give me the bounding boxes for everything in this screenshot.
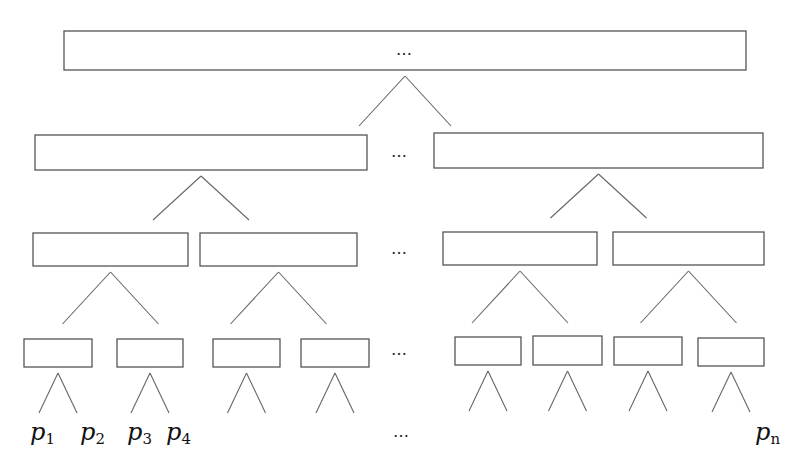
tree-edge-left [712,372,731,412]
tree-node-box [301,339,369,367]
leaf-label: pn [755,418,780,448]
ellipsis: … [391,239,409,258]
ellipsis: … [391,340,409,359]
tree-node-box [614,337,682,365]
tree-edge-right [247,373,266,413]
tree-edge-left [153,176,201,220]
tree-edge-left [629,371,648,411]
tree-node-box [698,338,764,366]
leaf-label: p4 [166,418,191,448]
leaf-label: p3 [127,418,152,448]
ellipsis: … [396,40,414,59]
leaf-label: p2 [80,418,105,448]
tree-node-box [434,133,763,168]
tree-edge-left [39,373,58,413]
tree-node-box [533,336,602,365]
tree-node-box [455,337,521,365]
tree-edge-right [599,174,647,218]
tree-edge-left [359,76,405,126]
tree-edge-right [731,372,750,412]
tree-edge-left [63,272,111,324]
tree-edge-right [111,272,159,324]
tree-node-box [443,232,597,265]
tree-edge-left [131,373,150,413]
tree-edge-right [58,373,77,413]
tree-edge-right [201,176,249,220]
leaf-label: p1 [30,418,55,448]
tree-edge-right [488,371,507,411]
tree-edge-left [316,373,335,413]
tree-node-box [213,339,280,367]
tree-node-box [24,339,92,367]
tree-edge-left [472,271,520,323]
tree-edge-left [231,272,279,324]
tree-diagram: …………p1p2p3p4pn… [0,0,805,465]
ellipsis: … [391,142,409,161]
tree-edge-left [228,373,247,413]
tree-node-box [200,233,357,266]
tree-node-box [35,135,367,170]
leaf-ellipsis: … [393,422,411,441]
tree-edge-left [551,174,599,218]
tree-edge-right [689,271,737,323]
tree-edge-right [568,371,587,411]
tree-edge-right [405,76,451,126]
tree-node-box [33,233,188,266]
tree-edge-right [520,271,568,323]
tree-edge-right [648,371,667,411]
tree-edge-left [469,371,488,411]
tree-edge-right [150,373,169,413]
tree-edge-left [641,271,689,323]
tree-node-box [117,339,183,367]
tree-edge-right [279,272,327,324]
tree-edge-left [549,371,568,411]
tree-edge-right [335,373,354,413]
tree-node-box [613,232,764,265]
tree-canvas: …………p1p2p3p4pn… [0,0,805,465]
